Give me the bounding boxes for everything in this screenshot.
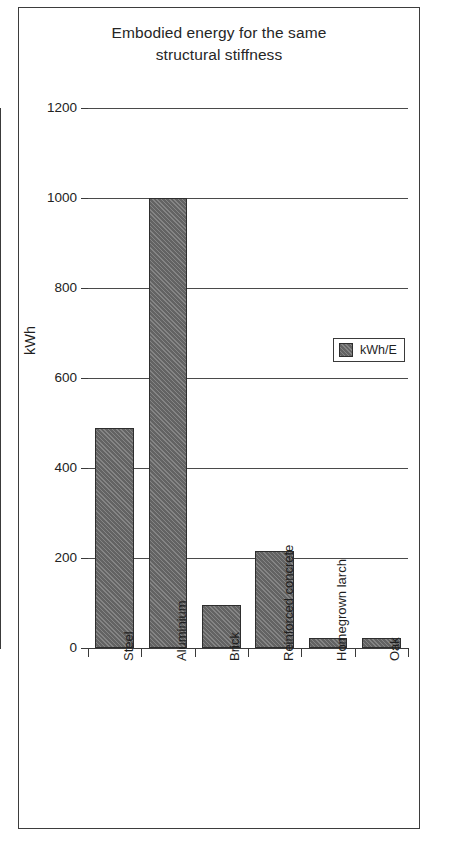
- x-axis-category-label: Reinforced concrete: [281, 545, 296, 661]
- legend-swatch-icon: [339, 343, 353, 357]
- y-axis-tick: [81, 468, 88, 469]
- x-axis-tick: [248, 648, 249, 657]
- x-axis-category-label: Brick: [227, 632, 242, 661]
- plot-area: [88, 108, 408, 648]
- chart-title-line-2: structural stiffness: [24, 44, 414, 66]
- bar: [95, 428, 133, 649]
- x-axis-tick: [408, 648, 409, 657]
- y-axis-tick-label: 1000: [47, 190, 77, 205]
- bar: [149, 198, 187, 648]
- y-axis-tick-label: 1200: [47, 100, 77, 115]
- y-axis-tick-label: 600: [54, 370, 77, 385]
- x-axis-tick: [355, 648, 356, 657]
- x-axis-category-label: Oak: [387, 637, 402, 661]
- y-axis-tick: [81, 648, 88, 649]
- x-axis-category-label: Aluminium: [174, 600, 189, 661]
- y-axis-tick-label: 200: [54, 550, 77, 565]
- y-axis-tick-label: 800: [54, 280, 77, 295]
- chart-title-line-1: Embodied energy for the same: [24, 22, 414, 44]
- chart-figure: Embodied energy for the same structural …: [0, 0, 449, 851]
- y-axis-tick: [81, 378, 88, 379]
- y-axis-tick-label: 0: [69, 640, 77, 655]
- y-axis-tick: [81, 288, 88, 289]
- chart-legend: kWh/E: [333, 338, 405, 362]
- y-axis-title: kWh: [22, 326, 38, 355]
- y-axis-tick: [81, 108, 88, 109]
- chart-title: Embodied energy for the same structural …: [24, 22, 414, 66]
- x-axis-tick: [88, 648, 89, 657]
- x-axis-tick: [301, 648, 302, 657]
- y-axis-tick: [81, 198, 88, 199]
- x-axis-category-label: Homegrown larch: [334, 559, 349, 661]
- x-axis-category-label: Steel: [121, 631, 136, 661]
- x-axis-tick: [141, 648, 142, 657]
- y-axis-line: [0, 108, 1, 649]
- x-axis-tick: [195, 648, 196, 657]
- y-axis-tick: [81, 558, 88, 559]
- y-axis-tick-label: 400: [54, 460, 77, 475]
- legend-label: kWh/E: [360, 343, 397, 357]
